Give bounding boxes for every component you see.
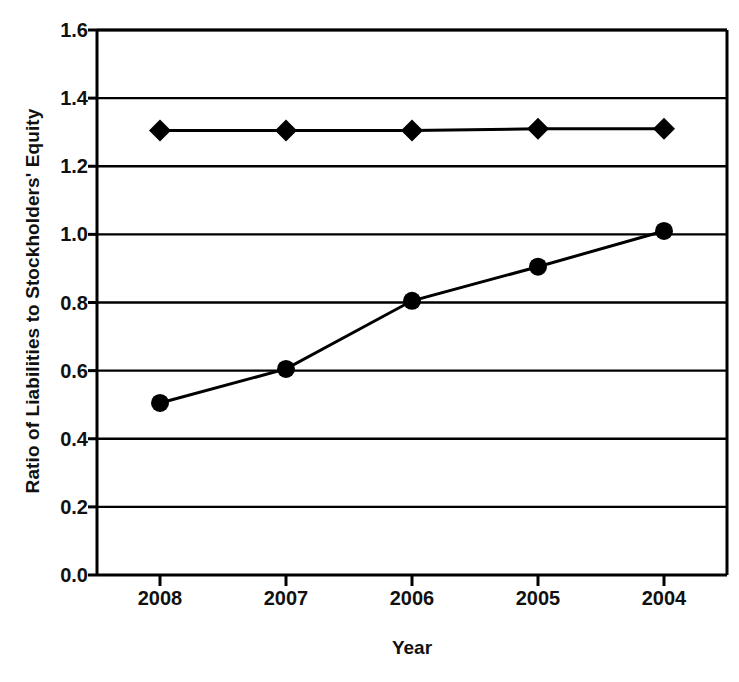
data-point-circle-marker (403, 292, 421, 310)
gridlines (97, 30, 727, 507)
plot-area (0, 0, 739, 682)
x-axis-tick-label: 2008 (105, 588, 215, 608)
x-axis-tick-label: 2005 (483, 588, 593, 608)
line-chart: Ratio of Liabilities to Stockholders' Eq… (0, 0, 739, 682)
data-point-diamond-marker (275, 119, 297, 141)
data-point-diamond-marker (149, 119, 171, 141)
series-diamond (149, 118, 675, 142)
data-point-circle-marker (277, 360, 295, 378)
x-axis-tick-marks (160, 575, 664, 586)
x-axis-title: Year (97, 637, 727, 659)
data-point-circle-marker (529, 258, 547, 276)
data-point-diamond-marker (401, 119, 423, 141)
x-axis-tick-label: 2006 (357, 588, 467, 608)
data-point-diamond-marker (527, 118, 549, 140)
x-axis-tick-label: 2007 (231, 588, 341, 608)
series-circle (151, 222, 673, 412)
data-point-diamond-marker (653, 118, 675, 140)
data-point-circle-marker (151, 394, 169, 412)
x-axis-tick-label: 2004 (609, 588, 719, 608)
data-series-layer (149, 118, 675, 412)
data-point-circle-marker (655, 222, 673, 240)
series-line (160, 231, 664, 403)
